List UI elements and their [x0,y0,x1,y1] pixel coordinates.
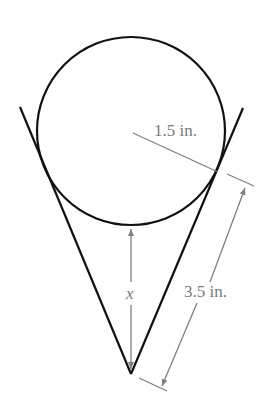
radius-label: 1.5 in. [154,121,197,140]
slant-label: 3.5 in. [184,282,227,301]
slant-dimension-lower [162,303,197,386]
slant-extension-top [227,174,254,186]
slant-dimension-upper [210,188,245,282]
cone-left-side [20,107,131,374]
cone-circle-diagram: 1.5 in. x 3.5 in. [0,0,267,417]
cone-right-side [131,108,243,374]
x-label: x [125,284,134,303]
